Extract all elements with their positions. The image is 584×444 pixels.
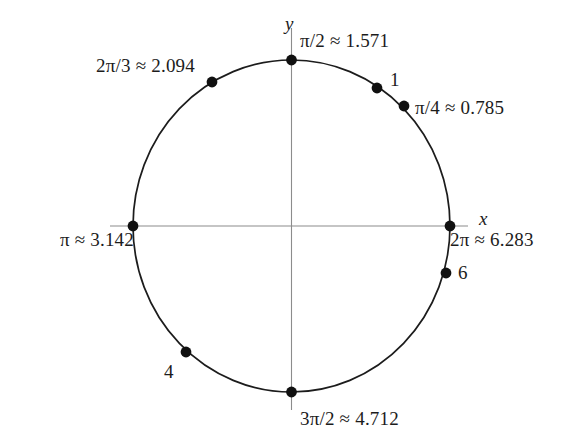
unit-circle-figure: [0, 0, 584, 444]
data-point-pi-over-2: [286, 55, 297, 66]
data-point-four: [181, 347, 192, 358]
point-label-two-pi-over-3: 2π/3 ≈ 2.094: [96, 56, 195, 75]
figure-canvas: y x π/2 ≈ 1.571 2π/3 ≈ 2.094 1 π/4 ≈ 0.7…: [0, 0, 584, 444]
point-label-four: 4: [164, 362, 174, 381]
data-point-pi-over-4: [399, 101, 410, 112]
point-label-pi-over-4: π/4 ≈ 0.785: [415, 98, 504, 117]
point-label-six: 6: [458, 263, 468, 282]
point-label-two-pi: 2π ≈ 6.283: [450, 230, 534, 249]
data-point-one: [372, 83, 383, 94]
data-point-three-pi-over-2: [286, 387, 297, 398]
x-axis-label: x: [479, 209, 487, 228]
y-axis-label: y: [285, 14, 293, 33]
point-label-pi: π ≈ 3.142: [60, 230, 134, 249]
point-label-one: 1: [390, 70, 400, 89]
point-label-three-pi-over-2: 3π/2 ≈ 4.712: [300, 409, 399, 428]
point-label-pi-over-2: π/2 ≈ 1.571: [300, 31, 389, 50]
data-point-two-pi-over-3: [207, 77, 218, 88]
data-point-six: [441, 268, 452, 279]
